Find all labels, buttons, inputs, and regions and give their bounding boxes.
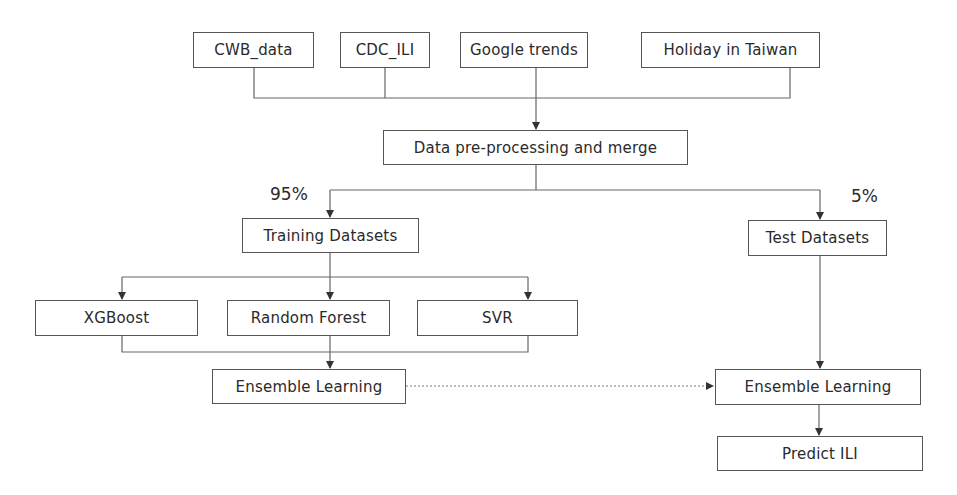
ensemble-learning-test-box: Ensemble Learning <box>715 369 921 405</box>
ensemble-label: Ensemble Learning <box>745 378 892 396</box>
source-label: CDC_ILI <box>356 41 415 59</box>
source-cwb-data: CWB_data <box>193 32 314 68</box>
source-label: Google trends <box>470 41 578 59</box>
train-split-percent: 95% <box>270 184 308 204</box>
model-label: Random Forest <box>251 309 367 327</box>
model-label: XGBoost <box>84 309 150 327</box>
source-google-trends: Google trends <box>460 32 588 68</box>
ensemble-label: Ensemble Learning <box>236 378 383 396</box>
preprocess-label: Data pre-processing and merge <box>414 139 657 157</box>
training-datasets-box: Training Datasets <box>242 218 419 253</box>
source-holiday-taiwan: Holiday in Taiwan <box>641 32 820 68</box>
predict-ili-box: Predict ILI <box>717 436 923 471</box>
test-label: Test Datasets <box>766 229 869 247</box>
model-label: SVR <box>482 309 513 327</box>
model-svr: SVR <box>417 300 578 336</box>
source-label: CWB_data <box>214 41 292 59</box>
predict-label: Predict ILI <box>782 445 858 463</box>
training-label: Training Datasets <box>264 227 398 245</box>
model-random-forest: Random Forest <box>227 300 390 336</box>
model-xgboost: XGBoost <box>35 300 198 336</box>
test-datasets-box: Test Datasets <box>748 220 887 256</box>
preprocess-box: Data pre-processing and merge <box>383 130 688 165</box>
test-split-percent: 5% <box>851 186 878 206</box>
ensemble-learning-train-box: Ensemble Learning <box>212 369 406 404</box>
source-label: Holiday in Taiwan <box>664 41 798 59</box>
source-cdc-ili: CDC_ILI <box>340 32 430 68</box>
